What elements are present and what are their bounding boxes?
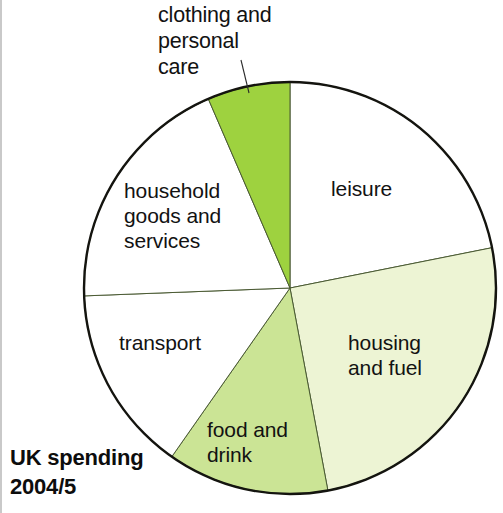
slice-label-food-and-drink: food and drink bbox=[207, 417, 288, 467]
slice-label-housing-and-fuel: housing and fuel bbox=[348, 330, 422, 380]
pie-chart-figure: clothing and personal care household goo… bbox=[0, 0, 503, 513]
chart-caption: UK spending 2004/5 bbox=[10, 443, 143, 501]
slice-label-transport: transport bbox=[119, 330, 201, 355]
slice-label-clothing-and-personal-care: clothing and personal care bbox=[158, 2, 272, 80]
slice-label-leisure: leisure bbox=[331, 176, 392, 201]
slice-label-household-goods-and-services: household goods and services bbox=[124, 178, 221, 253]
